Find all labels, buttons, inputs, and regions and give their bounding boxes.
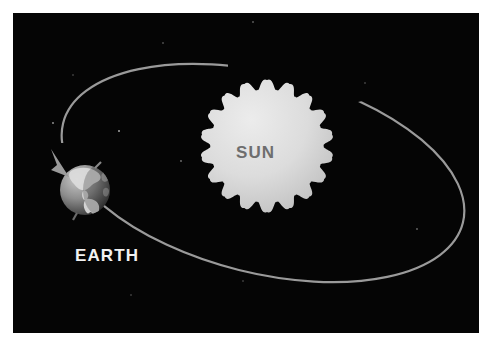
star bbox=[72, 74, 74, 76]
star bbox=[162, 42, 164, 44]
star bbox=[118, 130, 120, 132]
star bbox=[364, 82, 366, 84]
star bbox=[130, 294, 132, 296]
star bbox=[180, 160, 182, 162]
earth-axis-bottom bbox=[73, 213, 77, 220]
star bbox=[252, 21, 254, 23]
earth-terminator-shade bbox=[83, 165, 115, 215]
earth-label: EARTH bbox=[75, 246, 139, 266]
arrowhead-shape bbox=[51, 149, 69, 177]
orbit-diagram-svg bbox=[13, 13, 479, 333]
earth-body bbox=[60, 162, 115, 220]
space-background: SUN EARTH bbox=[13, 13, 479, 333]
revolution-direction-arrow bbox=[51, 149, 69, 177]
sun-label: SUN bbox=[236, 143, 275, 163]
star bbox=[242, 280, 244, 282]
star bbox=[416, 228, 418, 230]
earth-axis-top bbox=[95, 162, 101, 168]
figure-frame: SUN EARTH bbox=[0, 0, 494, 352]
star bbox=[52, 122, 54, 124]
